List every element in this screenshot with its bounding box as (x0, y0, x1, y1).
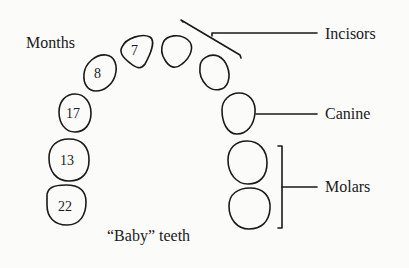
tooth-7-months: 7 (131, 43, 138, 58)
tooth-8: 8 (84, 55, 116, 91)
tooth-22-months: 22 (58, 199, 72, 214)
molars-bracket (278, 146, 317, 228)
tooth-first-molar-right (228, 141, 267, 184)
tooth-13: 13 (49, 139, 89, 181)
tooth-17-months: 17 (66, 106, 80, 121)
tooth-lateral-incisor-right (200, 55, 229, 90)
incisors-label: Incisors (325, 25, 376, 42)
tooth-canine-right (222, 93, 255, 134)
tooth-second-molar-right (229, 188, 270, 229)
baby-teeth-diagram: Months 7 8 17 (0, 0, 409, 268)
months-label: Months (26, 34, 75, 51)
molars-label: Molars (325, 178, 370, 195)
tooth-13-months: 13 (60, 153, 74, 168)
canine-label: Canine (325, 105, 370, 122)
incisors-bracket (181, 20, 317, 58)
tooth-7: 7 (121, 36, 153, 68)
diagram-canvas: Months 7 8 17 (0, 0, 409, 268)
tooth-8-months: 8 (94, 66, 101, 81)
baby-teeth-caption: “Baby” teeth (107, 227, 190, 245)
tooth-central-incisor-right (162, 36, 192, 67)
tooth-17: 17 (59, 94, 91, 132)
tooth-22: 22 (47, 185, 86, 225)
